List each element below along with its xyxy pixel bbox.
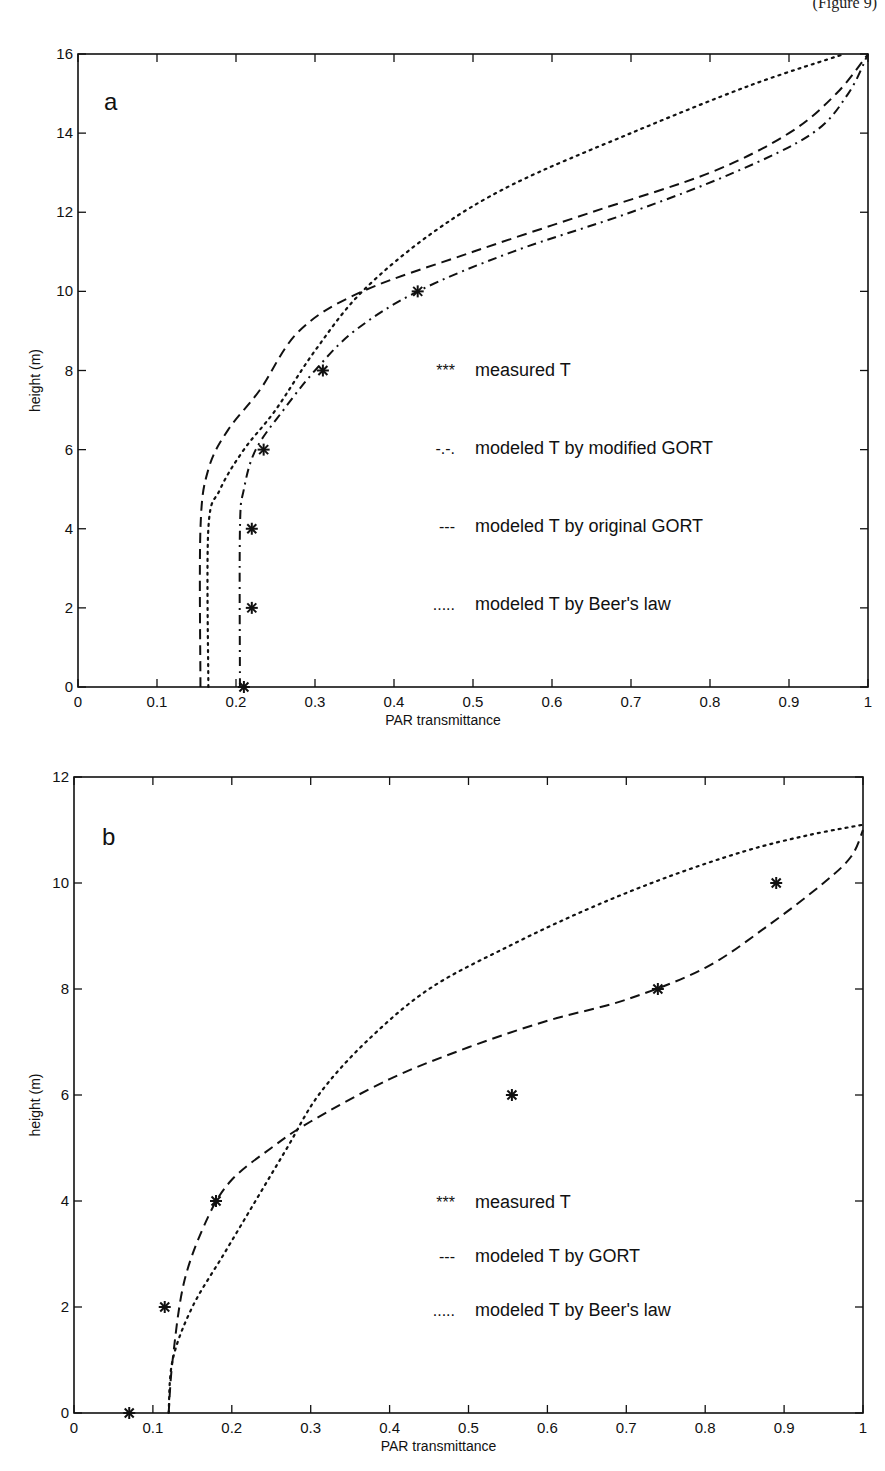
y-tick-label: 10	[56, 282, 73, 299]
y-tick-label: 12	[52, 768, 69, 785]
x-tick-label: 0.5	[463, 693, 484, 710]
panel-label: a	[104, 88, 118, 115]
x-axis-title: PAR transmittance	[381, 1438, 497, 1454]
series-line-dotted	[169, 825, 863, 1413]
y-axis-title: height (m)	[27, 349, 43, 412]
y-tick-label: 10	[52, 874, 69, 891]
chart-panel-b: 00.10.20.30.40.50.60.70.80.91024681012PA…	[27, 768, 867, 1454]
panel-label: b	[102, 823, 115, 850]
x-tick-label: 0.1	[147, 693, 168, 710]
legend-label: modeled T by Beer's law	[475, 594, 672, 614]
x-tick-label: 0.2	[221, 1419, 242, 1436]
measured-marker	[159, 1301, 171, 1313]
measured-marker	[123, 1407, 135, 1419]
x-tick-label: 1	[859, 1419, 867, 1436]
legend-label: measured T	[475, 360, 571, 380]
x-axis-title: PAR transmittance	[385, 712, 501, 728]
legend-symbol: ***	[436, 362, 455, 379]
measured-marker	[246, 602, 258, 614]
y-tick-label: 2	[61, 1298, 69, 1315]
y-tick-label: 6	[61, 1086, 69, 1103]
legend-label: modeled T by modified GORT	[475, 438, 713, 458]
legend-label: measured T	[475, 1192, 571, 1212]
legend-symbol: ---	[439, 1248, 455, 1265]
y-tick-label: 4	[65, 520, 73, 537]
figure-canvas: 00.10.20.30.40.50.60.70.80.9102468101214…	[0, 0, 885, 1471]
measured-marker	[258, 444, 270, 456]
legend-label: modeled T by Beer's law	[475, 1300, 672, 1320]
x-tick-label: 0.2	[226, 693, 247, 710]
legend-symbol: -.-.	[435, 440, 455, 457]
y-tick-label: 6	[65, 441, 73, 458]
x-tick-label: 0	[74, 693, 82, 710]
x-tick-label: 0.6	[537, 1419, 558, 1436]
measured-marker	[246, 523, 258, 535]
y-tick-label: 8	[65, 362, 73, 379]
y-tick-label: 16	[56, 45, 73, 62]
legend-symbol: ***	[436, 1194, 455, 1211]
x-tick-label: 0	[70, 1419, 78, 1436]
x-tick-label: 0.6	[542, 693, 563, 710]
x-tick-label: 0.4	[379, 1419, 400, 1436]
measured-marker	[506, 1089, 518, 1101]
y-tick-label: 2	[65, 599, 73, 616]
plot-frame	[78, 54, 868, 687]
y-tick-label: 14	[56, 124, 73, 141]
y-tick-label: 0	[61, 1404, 69, 1421]
measured-marker	[770, 877, 782, 889]
legend-symbol: .....	[433, 596, 455, 613]
y-tick-label: 0	[65, 678, 73, 695]
x-tick-label: 0.8	[695, 1419, 716, 1436]
x-tick-label: 0.9	[779, 693, 800, 710]
x-tick-label: 0.3	[305, 693, 326, 710]
x-tick-label: 0.8	[700, 693, 721, 710]
x-tick-label: 1	[864, 693, 872, 710]
series-line-dashed	[169, 830, 863, 1413]
x-tick-label: 0.1	[142, 1419, 163, 1436]
y-tick-label: 8	[61, 980, 69, 997]
y-tick-label: 12	[56, 203, 73, 220]
x-tick-label: 0.7	[621, 693, 642, 710]
y-axis-title: height (m)	[27, 1073, 43, 1136]
measured-marker	[210, 1195, 222, 1207]
x-tick-label: 0.3	[300, 1419, 321, 1436]
legend-symbol: ---	[439, 518, 455, 535]
legend-symbol: .....	[433, 1302, 455, 1319]
legend-label: modeled T by original GORT	[475, 516, 703, 536]
plot-frame	[74, 777, 863, 1413]
x-tick-label: 0.9	[774, 1419, 795, 1436]
y-tick-label: 4	[61, 1192, 69, 1209]
x-tick-label: 0.7	[616, 1419, 637, 1436]
x-tick-label: 0.5	[458, 1419, 479, 1436]
x-tick-label: 0.4	[384, 693, 405, 710]
chart-panel-a: 00.10.20.30.40.50.60.70.80.9102468101214…	[27, 45, 872, 728]
legend-label: modeled T by GORT	[475, 1246, 640, 1266]
